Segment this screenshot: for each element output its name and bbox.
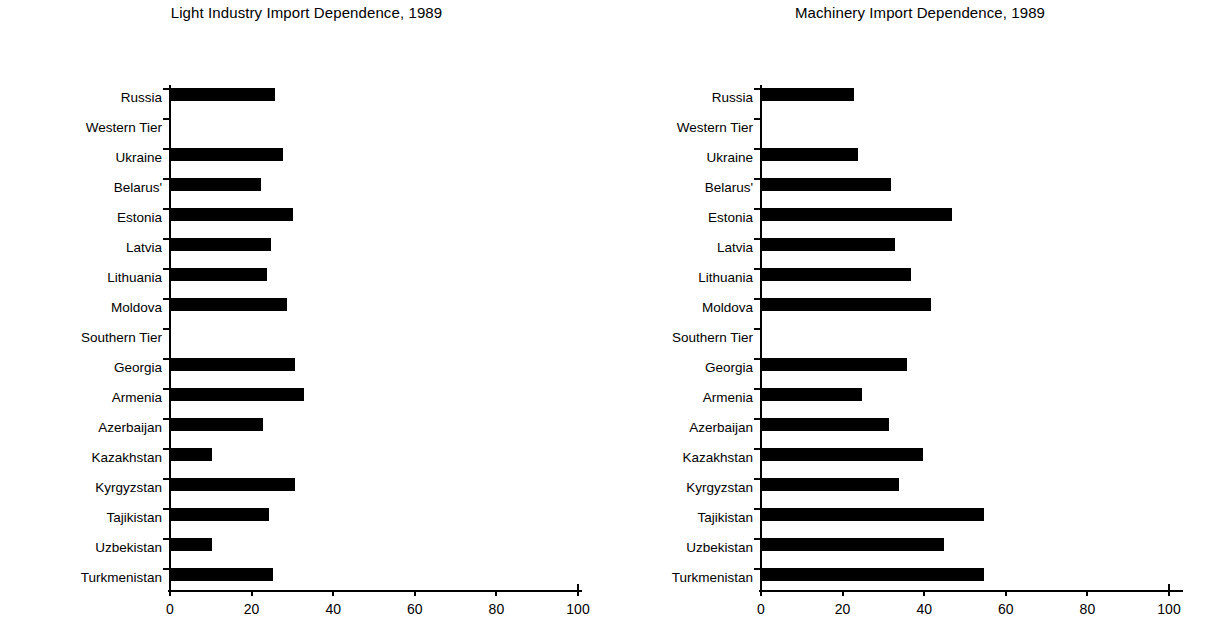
bar (760, 568, 984, 581)
y-axis-label: Uzbekistan (686, 540, 753, 556)
y-axis-label: Azerbaijan (689, 420, 753, 436)
y-axis-label: Turkmenistan (672, 570, 753, 586)
bar (760, 538, 944, 551)
x-tick-label: 0 (741, 601, 781, 617)
bar (760, 448, 923, 461)
y-tick (754, 328, 760, 330)
bar (760, 148, 858, 161)
x-tick-label: 0 (150, 601, 190, 617)
bar (169, 178, 261, 191)
x-tick-label: 60 (986, 601, 1026, 617)
bar (169, 478, 295, 491)
bar (760, 238, 895, 251)
y-axis-label: Southern Tier (672, 330, 753, 346)
y-axis-label: Kazakhstan (682, 450, 753, 466)
bar (760, 298, 931, 311)
y-axis-label: Armenia (703, 390, 753, 406)
x-tick (760, 590, 762, 596)
y-axis-label: Ukraine (115, 150, 162, 166)
chart-machinery: Machinery Import Dependence, 1989 Russia… (613, 0, 1226, 632)
bar (760, 388, 862, 401)
x-axis-line (759, 590, 1183, 592)
y-axis-label: Kazakhstan (91, 450, 162, 466)
bar (169, 508, 269, 521)
y-axis-label: Tajikistan (697, 510, 753, 526)
bar (169, 418, 263, 431)
y-axis-label: Western Tier (677, 120, 753, 136)
chart-title: Light Industry Import Dependence, 1989 (0, 4, 613, 21)
bar (760, 208, 952, 221)
x-axis-line (168, 590, 582, 592)
x-tick (495, 590, 497, 596)
bar (169, 268, 267, 281)
x-tick-label: 80 (476, 601, 516, 617)
bar (169, 358, 295, 371)
y-tick (163, 328, 169, 330)
y-axis-label: Azerbaijan (98, 420, 162, 436)
y-axis-label: Moldova (111, 300, 162, 316)
bar (169, 88, 275, 101)
bar (169, 298, 287, 311)
bar (760, 478, 899, 491)
y-tick (754, 118, 760, 120)
bar (760, 358, 907, 371)
chart-light-industry: Light Industry Import Dependence, 1989 R… (0, 0, 613, 632)
y-axis-label: Armenia (112, 390, 162, 406)
plot-area: RussiaWestern TierUkraineBelarus'Estonia… (169, 85, 569, 590)
y-axis-label: Kyrgyzstan (686, 480, 753, 496)
x-axis-end-cap (577, 584, 579, 592)
y-axis-label: Belarus' (114, 180, 162, 196)
y-axis-label: Tajikistan (106, 510, 162, 526)
x-tick-label: 60 (395, 601, 435, 617)
chart-title: Machinery Import Dependence, 1989 (613, 4, 1227, 21)
x-tick (1086, 590, 1088, 596)
x-tick-label: 20 (823, 601, 863, 617)
y-axis-label: Georgia (705, 360, 753, 376)
y-tick (163, 118, 169, 120)
y-axis-label: Latvia (717, 240, 753, 256)
x-tick (332, 590, 334, 596)
x-tick (251, 590, 253, 596)
y-axis-label: Kyrgyzstan (95, 480, 162, 496)
bar (169, 388, 304, 401)
x-tick (923, 590, 925, 596)
bar (169, 148, 283, 161)
bar (760, 88, 854, 101)
bar (760, 508, 984, 521)
bar (760, 178, 891, 191)
y-axis-label: Belarus' (705, 180, 753, 196)
y-axis-label: Latvia (126, 240, 162, 256)
bar (169, 568, 273, 581)
bar (760, 268, 911, 281)
y-axis-label: Russia (712, 90, 753, 106)
y-axis-label: Lithuania (107, 270, 162, 286)
y-axis-label: Estonia (708, 210, 753, 226)
y-axis-label: Lithuania (698, 270, 753, 286)
x-tick-label: 20 (232, 601, 272, 617)
y-axis-label: Western Tier (86, 120, 162, 136)
y-axis-label: Uzbekistan (95, 540, 162, 556)
x-tick-label: 100 (558, 601, 598, 617)
x-tick (842, 590, 844, 596)
x-tick-label: 80 (1067, 601, 1107, 617)
bar (169, 538, 212, 551)
x-tick-label: 40 (313, 601, 353, 617)
bar (169, 448, 212, 461)
y-axis-label: Georgia (114, 360, 162, 376)
y-axis-label: Turkmenistan (81, 570, 162, 586)
x-tick-label: 40 (904, 601, 944, 617)
y-axis-label: Estonia (117, 210, 162, 226)
x-tick (414, 590, 416, 596)
bar (760, 418, 889, 431)
x-tick (169, 590, 171, 596)
plot-area: RussiaWestern TierUkraineBelarus'Estonia… (760, 85, 1168, 590)
y-axis-label: Ukraine (706, 150, 753, 166)
y-axis-label: Moldova (702, 300, 753, 316)
y-axis-label: Southern Tier (81, 330, 162, 346)
bar (169, 238, 271, 251)
x-axis-end-cap (1168, 584, 1170, 592)
x-tick (1005, 590, 1007, 596)
x-tick-label: 100 (1149, 601, 1189, 617)
y-axis-label: Russia (121, 90, 162, 106)
bar (169, 208, 293, 221)
